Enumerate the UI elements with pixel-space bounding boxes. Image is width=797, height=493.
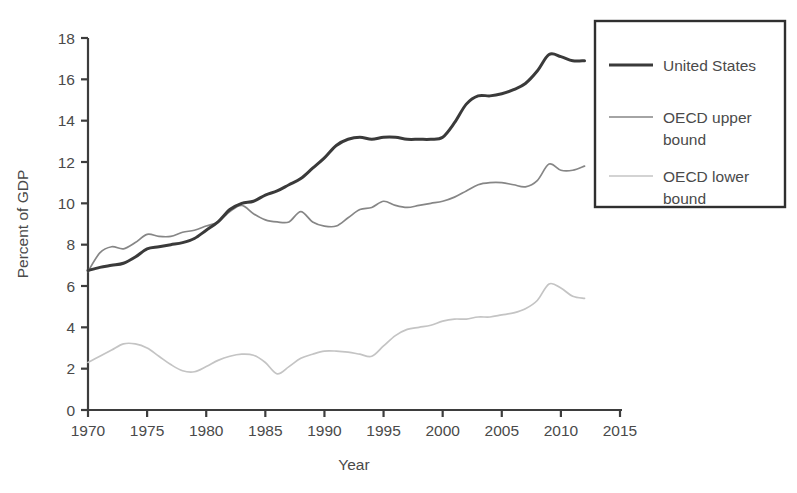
- x-axis-tick-label: 1990: [307, 422, 342, 439]
- x-axis-tick-label: 2010: [544, 422, 579, 439]
- y-axis-tick-label: 16: [58, 71, 75, 88]
- x-axis-title: Year: [338, 456, 369, 473]
- x-axis-tick-label: 1980: [189, 422, 224, 439]
- legend-item-label: OECD lower: [663, 168, 749, 185]
- legend-item-label: United States: [663, 57, 756, 74]
- series-line-oecd-lower-bound: [88, 283, 585, 374]
- y-axis-title: Percent of GDP: [14, 170, 31, 279]
- x-axis-tick-label: 2005: [485, 422, 519, 439]
- legend-item-label: OECD upper: [663, 109, 752, 126]
- line-chart: 0246810121416181970197519801985199019952…: [0, 0, 797, 493]
- x-axis-tick-label: 1970: [71, 422, 106, 439]
- y-axis-tick-label: 6: [66, 278, 75, 295]
- series-line-oecd-upper-bound: [88, 164, 585, 272]
- y-axis-tick-label: 4: [66, 319, 75, 336]
- y-axis-tick-label: 10: [58, 195, 76, 212]
- x-axis-tick-label: 1985: [248, 422, 282, 439]
- y-axis-tick-label: 2: [66, 360, 75, 377]
- x-axis-tick-label: 2000: [425, 422, 460, 439]
- x-axis-tick-label: 2015: [603, 422, 637, 439]
- series-line-united-states: [88, 54, 585, 271]
- y-axis-tick-label: 18: [58, 30, 75, 47]
- x-axis-tick-label: 1995: [366, 422, 400, 439]
- y-axis-tick-label: 8: [66, 236, 75, 253]
- x-axis-tick-label: 1975: [130, 422, 164, 439]
- y-axis-tick-label: 14: [58, 112, 76, 129]
- chart-figure: 0246810121416181970197519801985199019952…: [0, 0, 797, 493]
- y-axis-tick-label: 12: [58, 154, 75, 171]
- y-axis-tick-label: 0: [66, 402, 75, 419]
- legend-item-label: bound: [663, 131, 706, 148]
- legend-item-label: bound: [663, 190, 706, 207]
